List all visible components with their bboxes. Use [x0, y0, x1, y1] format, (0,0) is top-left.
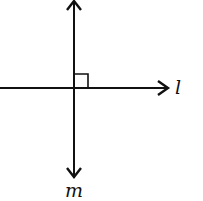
perpendicular-lines-diagram: l m [0, 0, 203, 201]
label-l: l [175, 76, 181, 98]
right-angle-marker [74, 74, 88, 88]
line-l [0, 81, 168, 95]
label-m: m [65, 179, 83, 201]
line-m [67, 1, 81, 178]
